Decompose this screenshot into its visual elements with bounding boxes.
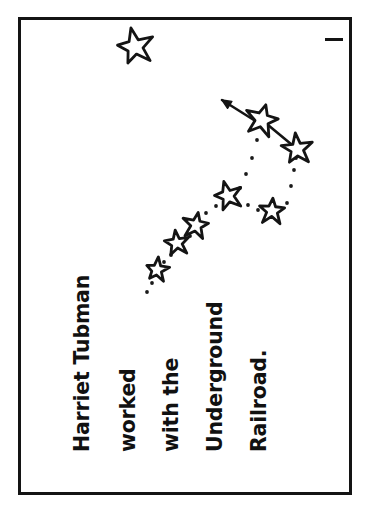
caption-line-4: Underground: [205, 302, 226, 452]
caption-block: Harriet Tubmanworkedwith theUndergroundR…: [0, 0, 370, 508]
caption-line-2: worked: [118, 368, 139, 452]
worksheet-page: Harriet Tubmanworkedwith theUndergroundR…: [0, 0, 370, 508]
caption-line-1: Harriet Tubman: [72, 275, 93, 452]
caption-line-3: with the: [161, 358, 182, 452]
caption-line-5: Railroad.: [249, 350, 270, 452]
